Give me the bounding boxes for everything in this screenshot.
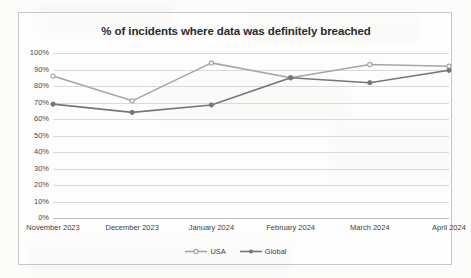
chart-container: % of incidents where data was definitely… [18,12,452,265]
data-point-global[interactable] [447,68,451,72]
y-axis-tick-label: 100% [19,49,49,57]
y-axis-tick-label: 20% [19,181,49,189]
series-layer [53,53,449,218]
legend-item-global[interactable]: Global [240,247,287,256]
chart-title: % of incidents where data was definitely… [19,25,453,37]
x-axis-tick-label: February 2024 [251,223,331,232]
data-point-global[interactable] [289,76,293,80]
legend-label: USA [210,247,225,256]
gridline [53,218,449,219]
x-axis-tick-label: November 2023 [13,223,93,232]
y-axis-tick-label: 80% [19,82,49,90]
chart-legend: USAGlobal [19,247,453,256]
legend-label: Global [265,247,287,256]
y-axis-tick-label: 0% [19,214,49,222]
x-axis-tick-label: December 2023 [92,223,172,232]
y-axis-tick-label: 90% [19,66,49,74]
data-point-usa[interactable] [368,62,372,66]
y-axis-tick-label: 10% [19,198,49,206]
data-point-usa[interactable] [51,74,55,78]
series-line-global [53,70,449,112]
data-point-global[interactable] [51,102,55,106]
legend-marker-icon [240,247,262,256]
x-axis-tick-label: April 2024 [409,223,471,232]
x-axis-tick-label: March 2024 [330,223,410,232]
x-axis-tick-label: January 2024 [171,223,251,232]
legend-marker-icon [185,247,207,256]
data-point-usa[interactable] [130,99,134,103]
data-point-usa[interactable] [209,61,213,65]
data-point-global[interactable] [368,81,372,85]
data-point-usa[interactable] [447,64,451,68]
page-background: % of incidents where data was definitely… [0,0,471,278]
data-point-global[interactable] [209,103,213,107]
y-axis-tick-label: 70% [19,99,49,107]
y-axis-tick-label: 60% [19,115,49,123]
y-axis-tick-label: 50% [19,132,49,140]
y-axis-tick-label: 30% [19,165,49,173]
plot-area [53,53,449,218]
series-line-usa [53,63,449,101]
data-point-global[interactable] [130,110,134,114]
legend-item-usa[interactable]: USA [185,247,225,256]
y-axis-tick-label: 40% [19,148,49,156]
